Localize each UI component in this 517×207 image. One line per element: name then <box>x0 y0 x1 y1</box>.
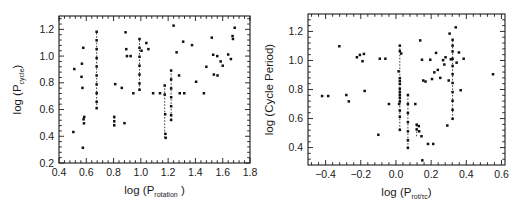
data-point <box>451 65 454 68</box>
data-point <box>159 92 162 95</box>
data-point <box>443 63 446 66</box>
data-point-group <box>321 26 494 161</box>
data-point <box>138 47 141 50</box>
data-point <box>379 57 382 60</box>
data-point <box>81 62 84 65</box>
data-point <box>431 78 434 81</box>
data-point <box>345 94 348 97</box>
data-point <box>451 91 454 94</box>
data-point <box>399 94 402 97</box>
data-point <box>123 122 126 125</box>
axis-titles: log (Protation )log (Pcycle) <box>11 64 185 198</box>
data-point <box>384 57 387 60</box>
data-point <box>95 39 98 42</box>
x-tick-label: 0.8 <box>106 166 121 178</box>
data-point <box>95 107 98 110</box>
data-point <box>113 116 116 119</box>
axis-ticks <box>308 14 505 165</box>
data-point <box>170 105 173 108</box>
data-point <box>451 100 454 103</box>
y-tick-label: 0.6 <box>288 112 303 124</box>
data-point <box>492 73 495 76</box>
data-point <box>399 91 402 94</box>
data-point <box>212 54 215 57</box>
data-point <box>451 39 454 42</box>
data-point <box>124 31 127 33</box>
data-point <box>429 58 432 61</box>
data-point <box>422 79 425 82</box>
data-point <box>172 24 175 27</box>
x-tick-label: 0.2 <box>424 168 439 180</box>
data-point <box>399 77 402 80</box>
data-point <box>356 56 359 59</box>
data-point <box>421 159 424 162</box>
data-point <box>397 70 400 73</box>
data-point <box>407 130 410 133</box>
data-point <box>152 92 155 95</box>
data-point <box>113 124 116 127</box>
x-axis-title: log (Protation ) <box>124 184 185 198</box>
data-point <box>113 120 116 123</box>
data-point <box>399 129 402 132</box>
x-tick-label: 0.0 <box>389 168 404 180</box>
data-point <box>377 134 380 137</box>
data-point <box>407 103 410 106</box>
x-tick-labels: 0.40.60.81.01.21.41.61.8 <box>52 166 258 178</box>
data-point <box>82 147 85 150</box>
data-point <box>213 73 216 76</box>
data-point <box>95 101 98 104</box>
y-tick-label: 0.4 <box>39 130 54 142</box>
data-point <box>399 44 402 47</box>
data-point <box>363 53 366 56</box>
data-point <box>205 66 208 69</box>
data-point <box>95 83 98 86</box>
x-tick-label: 0.4 <box>459 168 474 180</box>
data-point <box>95 92 98 95</box>
data-point <box>72 131 75 134</box>
y-tick-label: 1.0 <box>39 50 54 62</box>
data-point <box>338 45 341 48</box>
data-point <box>419 39 422 42</box>
data-point <box>178 92 181 95</box>
data-point <box>163 93 166 96</box>
y-tick-label: 0.8 <box>39 76 54 88</box>
data-point <box>321 95 323 98</box>
data-point <box>399 88 402 91</box>
data-point <box>80 76 83 79</box>
data-point <box>399 83 402 86</box>
data-point <box>435 52 438 55</box>
data-point <box>95 57 98 60</box>
data-point <box>451 50 454 53</box>
data-point <box>433 71 436 74</box>
data-point <box>82 47 85 50</box>
data-point <box>447 79 450 82</box>
data-point <box>170 87 173 90</box>
data-point <box>132 92 135 95</box>
data-point <box>399 109 402 112</box>
y-tick-label: 1.2 <box>288 25 303 37</box>
data-point <box>446 124 449 127</box>
data-point <box>216 74 219 77</box>
data-point <box>327 95 330 98</box>
data-point <box>82 118 85 121</box>
data-point <box>407 94 410 97</box>
y-tick-label: 0.8 <box>288 83 303 95</box>
data-point <box>451 82 454 85</box>
data-point <box>421 58 424 61</box>
data-point <box>170 69 173 72</box>
plot-frame <box>308 14 505 165</box>
data-point <box>138 64 141 67</box>
data-point <box>170 114 173 117</box>
data-point <box>459 89 462 92</box>
y-axis-title: log (Cycle Period) <box>263 44 275 136</box>
y-tick-labels: 0.20.40.60.81.01.2 <box>39 23 54 169</box>
scatter-plot-rossby-number: −0.4−0.20.00.20.40.60.40.60.81.01.2log (… <box>258 0 516 207</box>
data-point <box>163 84 166 87</box>
data-point <box>114 83 117 86</box>
y-tick-label: 1.0 <box>288 54 303 66</box>
data-point <box>125 48 128 51</box>
data-point <box>415 128 418 131</box>
data-point <box>73 68 76 71</box>
data-point <box>359 54 362 57</box>
data-point <box>451 73 454 76</box>
